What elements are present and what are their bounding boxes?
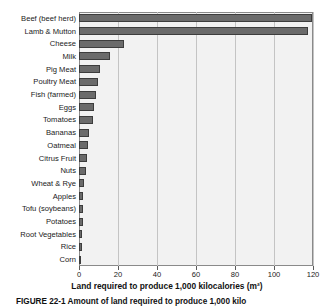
bar [79, 40, 124, 48]
bar-row [79, 37, 313, 50]
bar [79, 205, 83, 213]
x-axis-tick-label: 120 [307, 270, 320, 280]
bar-row [79, 139, 313, 152]
bar-row [79, 12, 313, 25]
bar [79, 179, 84, 187]
bar [79, 103, 94, 111]
bar-row [79, 114, 313, 127]
bar-row [79, 25, 313, 38]
bar [79, 52, 110, 60]
bar-row [79, 203, 313, 216]
y-axis-label: Poultry Meat [0, 77, 76, 86]
x-axis-tick-label: 20 [114, 270, 122, 280]
y-axis-label: Citrus Fruit [0, 154, 76, 163]
bar [79, 154, 87, 162]
x-axis-tick-label: 60 [192, 270, 200, 280]
y-axis-label: Pig Meat [0, 65, 76, 74]
x-axis-tick-label: 40 [153, 270, 161, 280]
y-axis-label: Eggs [0, 103, 76, 112]
y-axis-label: Potatoes [0, 217, 76, 226]
bar [79, 141, 88, 149]
y-axis-label: Tomatoes [0, 115, 76, 124]
bar [79, 192, 83, 200]
bar-row [79, 101, 313, 114]
bar [79, 243, 82, 251]
x-axis-title: Land required to produce 1,000 kilocalor… [0, 281, 334, 291]
bar [79, 91, 96, 99]
y-axis-label: Root Vegetables [0, 230, 76, 239]
bar [79, 256, 81, 264]
bar-row [79, 152, 313, 165]
y-axis-label: Tofu (soybeans) [0, 204, 76, 213]
bar-row [79, 190, 313, 203]
chart-plot-area [79, 12, 313, 266]
figure-container: Beef (beef herd)Lamb & MuttonCheeseMilkP… [0, 0, 334, 307]
y-axis-label: Cheese [0, 39, 76, 48]
bar-row [79, 50, 313, 63]
bar-row [79, 76, 313, 89]
y-axis-label: Oatmeal [0, 141, 76, 150]
bar-row [79, 88, 313, 101]
bar [79, 167, 86, 175]
y-axis-label: Bananas [0, 128, 76, 137]
y-axis-label: Lamb & Mutton [0, 27, 76, 36]
gridline [313, 12, 314, 266]
x-axis-tick-label: 0 [77, 270, 81, 280]
bar-row [79, 253, 313, 266]
y-axis-label: Beef (beef herd) [0, 14, 76, 23]
y-axis-label: Rice [0, 242, 76, 251]
bar-row [79, 126, 313, 139]
bar [79, 116, 93, 124]
y-axis-label: Apples [0, 192, 76, 201]
bar-row [79, 164, 313, 177]
bar [79, 14, 312, 22]
bar [79, 230, 82, 238]
y-axis-label: Fish (farmed) [0, 90, 76, 99]
bars-group [79, 12, 313, 266]
figure-caption: FIGURE 22-1 Amount of land required to p… [16, 297, 334, 306]
bar-row [79, 228, 313, 241]
x-axis-tick-label: 100 [268, 270, 281, 280]
y-axis-category-labels: Beef (beef herd)Lamb & MuttonCheeseMilkP… [0, 12, 76, 266]
y-axis-label: Nuts [0, 166, 76, 175]
bar [79, 27, 308, 35]
bar-row [79, 241, 313, 254]
bar-row [79, 177, 313, 190]
bar [79, 218, 83, 226]
x-axis-tick-label: 80 [231, 270, 239, 280]
bar-row [79, 63, 313, 76]
y-axis-label: Corn [0, 255, 76, 264]
bar [79, 78, 98, 86]
y-axis-label: Wheat & Rye [0, 179, 76, 188]
y-axis-label: Milk [0, 52, 76, 61]
bar [79, 129, 89, 137]
bar [79, 65, 100, 73]
bar-row [79, 215, 313, 228]
